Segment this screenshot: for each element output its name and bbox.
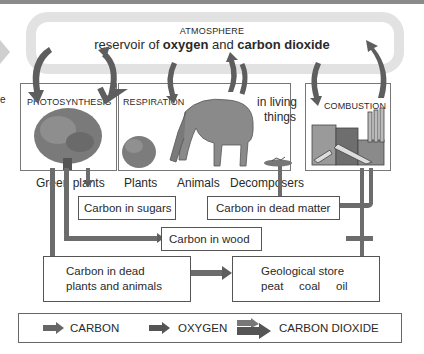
co2-from-respiration-arrow-icon	[226, 52, 238, 92]
pipe-dead-matter-h	[338, 203, 373, 208]
o2-up-arrow-icon	[100, 54, 118, 100]
pipe-to-sugars	[86, 168, 90, 182]
atmosphere-flow-arrows	[28, 40, 386, 106]
store-geological: Geological store peat coal oil	[232, 256, 380, 302]
arrowhead-down-icon	[83, 181, 93, 187]
store-carbon-in-dead-plants-animals: Carbon in dead plants and animals	[43, 256, 191, 302]
decomposers-label: Decomposers	[230, 176, 304, 190]
tree-icon	[34, 108, 102, 170]
o2-to-combustion-arrow-icon	[310, 62, 322, 106]
geological-coal: coal	[299, 280, 320, 292]
carbon-dioxide-arrow-icon	[237, 318, 271, 340]
store-carbon-in-dead-matter: Carbon in dead matter	[207, 196, 340, 220]
legend-carbon: CARBON	[70, 322, 119, 334]
pipe-green-plants-to-wood-v	[64, 168, 69, 240]
carbon-arrow-icon	[43, 322, 65, 334]
legend: CARBON OXYGEN CARBON DIOXIDE	[18, 313, 402, 343]
co2-down-arrow-icon	[28, 47, 52, 104]
oxygen-arrow-icon	[149, 322, 171, 334]
legend-oxygen: OXYGEN	[178, 322, 227, 334]
geological-title: Geological store	[261, 265, 344, 277]
store-carbon-in-sugars: Carbon in sugars	[78, 196, 176, 220]
green-plants-label: Green plants	[36, 176, 105, 190]
co2-from-combustion-arrow-icon	[366, 40, 386, 98]
pipe-decomposers-dead-matter	[278, 166, 282, 196]
geological-oil: oil	[336, 280, 348, 292]
arrowhead-right-icon	[222, 266, 232, 280]
animals-label: Animals	[177, 176, 220, 190]
store-carbon-in-wood: Carbon in wood	[161, 227, 262, 251]
pipe-wood-h	[346, 236, 373, 241]
o2-to-respiration-arrow-icon	[166, 62, 178, 104]
horse-icon	[170, 99, 253, 166]
pipe-dead-matter-to-combustion	[369, 168, 373, 204]
bush-icon	[122, 136, 156, 168]
plants-label: Plants	[124, 176, 157, 190]
factory-icon	[312, 108, 384, 165]
pipe-green-plants-to-wood-h	[64, 236, 158, 241]
store-dead-line1: Carbon in dead	[66, 265, 145, 277]
legend-carbon-dioxide: CARBON DIOXIDE	[279, 322, 379, 334]
store-dead-line2: plants and animals	[66, 280, 162, 292]
geological-peat: peat	[261, 280, 283, 292]
